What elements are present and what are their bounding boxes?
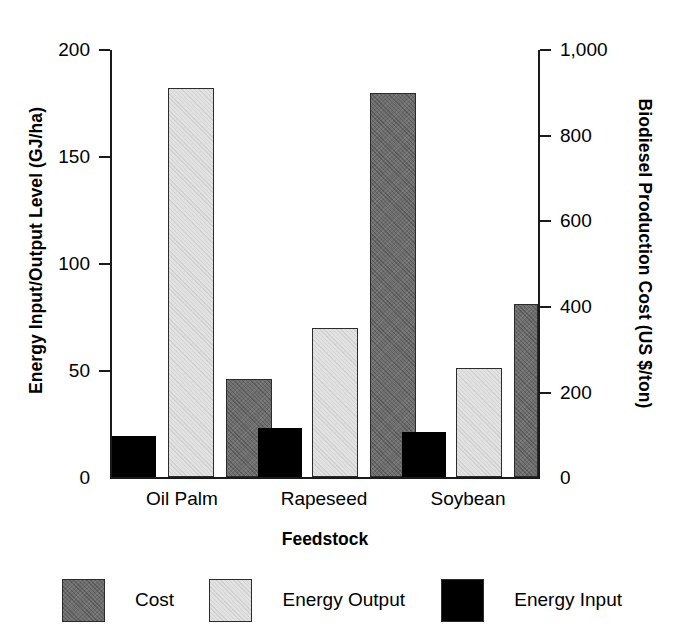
x-axis-line — [110, 477, 540, 479]
y-axis-right-label-200: 200 — [560, 383, 592, 402]
y-axis-left-label-100: 100 — [58, 254, 90, 273]
y-axis-right-label-0: 0 — [560, 468, 571, 487]
y-axis-right-tick-800 — [540, 135, 551, 137]
bar-rapeseed-cost — [370, 93, 416, 477]
legend-item-cost: Cost — [62, 579, 174, 622]
y-axis-right-tick-600 — [540, 220, 551, 222]
x-axis-category-label-rapeseed: Rapeseed — [252, 488, 396, 510]
y-axis-right-label-1000: 1,000 — [560, 40, 608, 59]
legend-swatch-energy-input-icon — [441, 579, 484, 622]
legend-item-energy-input: Energy Input — [441, 579, 622, 622]
x-axis-category-label-oil-palm: Oil Palm — [110, 488, 254, 510]
y-axis-right-tick-1000 — [540, 49, 551, 51]
y-axis-right-line — [538, 50, 540, 479]
legend-item-energy-output: Energy Output — [209, 579, 405, 622]
y-axis-right-label-800: 800 — [560, 126, 592, 145]
bar-soybean-energy-output — [456, 368, 502, 477]
x-axis-title: Feedstock — [110, 529, 540, 550]
y-axis-left-tick-200 — [99, 49, 110, 51]
bar-soybean-cost — [514, 304, 538, 477]
y-axis-right-label-600: 600 — [560, 211, 592, 230]
bar-rapeseed-energy-input — [258, 428, 302, 477]
y-axis-left-tick-150 — [99, 156, 110, 158]
y-axis-left-label-0: 0 — [79, 468, 90, 487]
legend-swatch-energy-output-icon — [209, 579, 252, 622]
legend-label-cost: Cost — [135, 589, 174, 611]
bar-oil-palm-energy-output — [168, 88, 214, 477]
y-axis-left-label-150: 150 — [58, 147, 90, 166]
legend-swatch-cost-icon — [62, 579, 105, 622]
x-axis-category-label-soybean: Soybean — [396, 488, 540, 510]
bar-rapeseed-energy-output — [312, 328, 358, 478]
bar-oil-palm-energy-input — [112, 436, 156, 477]
y-axis-right-tick-200 — [540, 392, 551, 394]
bar-soybean-energy-input — [402, 432, 446, 477]
y-axis-left-title: Energy Input/Output Level (GJ/ha) — [26, 51, 47, 451]
legend-label-energy-input: Energy Input — [514, 589, 622, 611]
y-axis-left-tick-100 — [99, 263, 110, 265]
legend-label-energy-output: Energy Output — [282, 589, 405, 611]
bars-layer — [112, 50, 538, 477]
y-axis-left-label-200: 200 — [58, 40, 90, 59]
y-axis-right-title: Biodiesel Production Cost (US $/ton) — [634, 54, 655, 454]
y-axis-left-tick-50 — [99, 370, 110, 372]
y-axis-right-label-400: 400 — [560, 297, 592, 316]
y-axis-left-label-50: 50 — [69, 361, 90, 380]
biodiesel-feedstock-bar-chart: 200 150 100 50 0 1,000 800 600 400 200 0… — [0, 0, 673, 642]
chart-legend: Cost Energy Output Energy Input — [62, 577, 622, 623]
y-axis-right-tick-400 — [540, 306, 551, 308]
